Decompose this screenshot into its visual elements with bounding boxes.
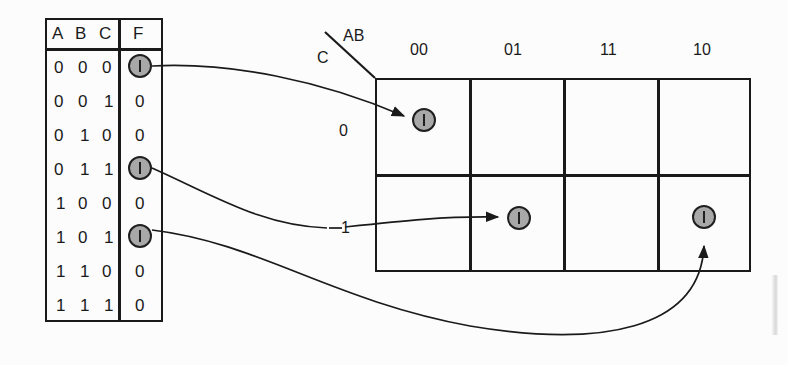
- kmap-figure: A B C F 0 0 0 0 0 1 0 0 1 0 0 0 1 1 1 0 …: [0, 0, 788, 365]
- table-row: 1: [80, 127, 89, 144]
- truth-table-f-row-2: 0: [135, 127, 144, 144]
- kmap-col-header-00: 00: [410, 42, 428, 58]
- kmap-row-header-1: 1: [341, 220, 350, 236]
- kmap-token-c1-ab01: [507, 206, 531, 230]
- table-row: 1: [56, 229, 65, 246]
- table-row: 0: [78, 195, 87, 212]
- table-row: 1: [80, 161, 89, 178]
- truth-table-f-row-4: 0: [135, 195, 144, 212]
- kmap-col-header-01: 01: [504, 42, 522, 58]
- table-row: 0: [78, 59, 87, 76]
- kmap-corner-label-c: C: [317, 50, 329, 66]
- table-row: 1: [104, 297, 113, 314]
- truth-table-header-b: B: [75, 25, 86, 42]
- table-row: 1: [104, 93, 113, 110]
- kmap-token-c0-ab00: [412, 108, 436, 132]
- truth-table-f-row-7: 0: [135, 297, 144, 314]
- table-row: 1: [56, 297, 65, 314]
- table-row: 1: [56, 195, 65, 212]
- table-row: 0: [54, 161, 63, 178]
- table-row: 1: [56, 263, 65, 280]
- kmap-col-header-11: 11: [600, 42, 617, 58]
- truth-table-token-row-5: [128, 224, 152, 248]
- table-row: 0: [102, 127, 111, 144]
- kmap-col-header-10: 10: [693, 42, 711, 58]
- truth-table-header-c: C: [99, 25, 111, 42]
- truth-table-f-row-6: 0: [135, 263, 144, 280]
- table-row: 0: [102, 59, 111, 76]
- table-row: 0: [78, 229, 87, 246]
- table-row: 0: [54, 59, 63, 76]
- table-row: 0: [102, 195, 111, 212]
- table-row: 0: [102, 263, 111, 280]
- truth-table-header-a: A: [52, 25, 63, 42]
- table-row: 1: [80, 297, 89, 314]
- connector-row-011-part-a: [152, 168, 327, 228]
- connector-row-000: [152, 65, 404, 116]
- kmap-corner-label-ab: AB: [343, 28, 364, 44]
- kmap-horizontal-divider: [375, 174, 751, 177]
- truth-table-header-rule: [45, 48, 163, 51]
- kmap-row-header-0: 0: [339, 123, 348, 139]
- table-row: 1: [80, 263, 89, 280]
- table-row: 1: [104, 229, 113, 246]
- table-row: 0: [54, 127, 63, 144]
- table-row: 0: [54, 93, 63, 110]
- scan-edge-artifact: [771, 275, 778, 335]
- table-row: 0: [78, 93, 87, 110]
- truth-table-header-f: F: [133, 25, 143, 42]
- truth-table-f-row-1: 0: [135, 93, 144, 110]
- truth-table-token-row-0: [128, 54, 152, 78]
- truth-table-column-divider: [118, 18, 121, 322]
- table-row: 1: [104, 161, 113, 178]
- kmap-token-c1-ab10: [692, 205, 716, 229]
- truth-table-token-row-3: [128, 156, 152, 180]
